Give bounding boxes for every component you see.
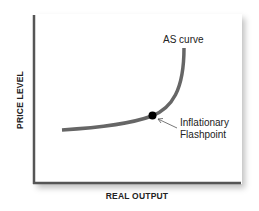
chart-plot	[0, 0, 259, 211]
y-axis-label: PRICE LEVEL	[15, 71, 25, 129]
curve-label: AS curve	[163, 34, 204, 45]
as-curve	[62, 48, 184, 130]
flashpoint-label: Inflationary Flashpoint	[180, 117, 229, 141]
flashpoint-label-line1: Inflationary	[180, 117, 229, 129]
x-axis-label: REAL OUTPUT	[106, 191, 169, 201]
flashpoint-label-line2: Flashpoint	[180, 129, 229, 141]
annotation-arrow	[158, 119, 177, 128]
inflationary-flashpoint-dot	[149, 112, 157, 120]
